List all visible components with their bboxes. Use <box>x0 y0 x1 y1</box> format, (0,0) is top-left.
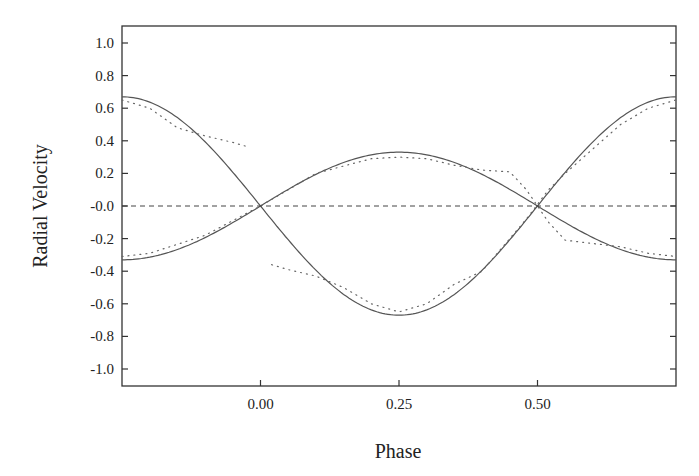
x-tick-label: 0.25 <box>386 396 412 412</box>
y-tick-label: -0.6 <box>90 296 114 312</box>
x-tick-label: 0.50 <box>524 396 550 412</box>
y-tick-label: -0.8 <box>90 328 114 344</box>
observed-dotted-curve <box>122 157 676 256</box>
data-curves <box>122 97 676 315</box>
x-axis: 0.000.250.50 <box>247 380 550 412</box>
y-tick-label: 0.6 <box>95 100 114 116</box>
y-tick-label: -0.0 <box>90 198 114 214</box>
y-tick-label: -0.4 <box>90 263 114 279</box>
y-tick-label: 1.0 <box>95 35 114 51</box>
y-tick-label: 0.4 <box>95 133 114 149</box>
radial-velocity-chart: 1.00.80.60.40.2-0.0-0.2-0.4-0.6-0.8-1.0 … <box>0 0 699 476</box>
x-tick-label: 0.00 <box>247 396 273 412</box>
y-tick-label: -0.2 <box>90 231 114 247</box>
y-axis-title: Radial Velocity <box>29 144 52 268</box>
y-tick-label: 0.2 <box>95 165 114 181</box>
y-tick-label: 0.8 <box>95 68 114 84</box>
y-tick-label: -1.0 <box>90 361 114 377</box>
x-axis-title: Phase <box>375 440 422 462</box>
